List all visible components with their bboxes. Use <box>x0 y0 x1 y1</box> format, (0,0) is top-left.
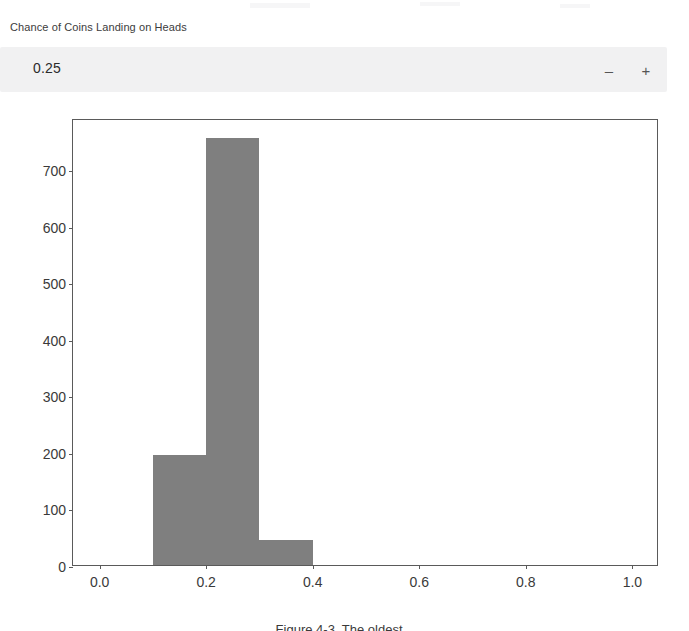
y-tick-label: 600 <box>43 220 66 236</box>
y-tick-mark <box>69 510 73 511</box>
figure-caption-clipped: Figure 4-3. The oldest... <box>0 622 689 631</box>
y-tick-mark <box>69 341 73 342</box>
y-tick-mark <box>69 567 73 568</box>
y-tick-label: 0 <box>58 559 66 575</box>
y-tick-mark <box>69 454 73 455</box>
x-tick-label: 0.8 <box>516 574 535 590</box>
histogram-bar <box>259 540 312 565</box>
scan-artifact <box>420 2 460 6</box>
x-tick-label: 0.2 <box>196 574 215 590</box>
slider-panel[interactable]: 0.25 – + <box>0 47 667 92</box>
plot-area <box>73 120 657 565</box>
x-tick-label: 0.4 <box>303 574 322 590</box>
slider-value[interactable]: 0.25 <box>33 60 61 76</box>
figure-caption-text: Figure 4-3. The oldest... <box>0 622 689 631</box>
histogram-bar <box>206 138 259 565</box>
y-tick-label: 500 <box>43 276 66 292</box>
decrement-button[interactable]: – <box>598 59 620 81</box>
y-tick-mark <box>69 397 73 398</box>
increment-button[interactable]: + <box>635 59 657 81</box>
y-tick-label: 200 <box>43 446 66 462</box>
histogram-figure: 0100200300400500600700 0.00.20.40.60.81.… <box>0 104 689 631</box>
y-tick-mark <box>69 171 73 172</box>
y-tick-mark <box>69 228 73 229</box>
x-tick-label: 0.6 <box>410 574 429 590</box>
y-tick-label: 400 <box>43 333 66 349</box>
x-tick-label: 0.0 <box>90 574 109 590</box>
y-tick-label: 300 <box>43 389 66 405</box>
x-tick-mark <box>313 565 314 569</box>
x-tick-mark <box>419 565 420 569</box>
x-tick-mark <box>632 565 633 569</box>
slider-label: Chance of Coins Landing on Heads <box>10 21 187 33</box>
histogram-bar <box>153 455 206 565</box>
x-tick-label: 1.0 <box>623 574 642 590</box>
scan-artifact <box>560 4 590 8</box>
x-tick-mark <box>526 565 527 569</box>
scan-artifact <box>250 3 310 8</box>
y-tick-label: 100 <box>43 502 66 518</box>
plot-axes: 0100200300400500600700 0.00.20.40.60.81.… <box>72 119 658 566</box>
x-tick-mark <box>100 565 101 569</box>
screenshot-root: Chance of Coins Landing on Heads 0.25 – … <box>0 0 689 631</box>
y-tick-mark <box>69 284 73 285</box>
y-tick-label: 700 <box>43 163 66 179</box>
x-tick-mark <box>206 565 207 569</box>
